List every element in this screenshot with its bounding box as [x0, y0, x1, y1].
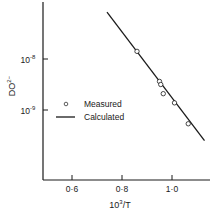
x-tick-label: 1·0	[166, 184, 179, 194]
y-tick-label: 10-9	[21, 105, 36, 116]
legend-label-calculated: Calculated	[84, 112, 124, 122]
measured-point	[159, 82, 163, 86]
chart-canvas: 0·60·81·010-810-9 MeasuredCalculated 103…	[0, 0, 210, 212]
measured-point	[172, 101, 176, 105]
x-axis-label: 103/T	[109, 199, 131, 210]
axes: 0·60·81·010-810-9	[21, 2, 210, 194]
legend-marker-circle-icon	[64, 102, 68, 106]
legend: MeasuredCalculated	[56, 99, 124, 122]
measured-point	[135, 49, 139, 53]
x-tick-label: 0·6	[66, 184, 79, 194]
y-axis-label: DO2−	[6, 75, 17, 96]
y-tick-label: 10-8	[21, 54, 36, 65]
measured-point	[186, 122, 190, 126]
measured-point	[161, 91, 165, 95]
x-tick-label: 0·8	[116, 184, 129, 194]
legend-label-measured: Measured	[84, 99, 122, 109]
